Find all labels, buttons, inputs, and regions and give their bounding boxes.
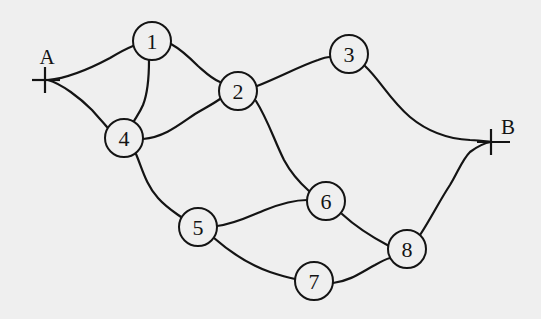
network-diagram: A B 1 2 3 4 5 6 (0, 0, 541, 319)
terminal-a-label: A (39, 45, 55, 69)
edge-A-4 (48, 80, 107, 127)
node-1-label: 1 (147, 29, 158, 54)
node-7: 7 (295, 262, 333, 300)
node-2: 2 (219, 72, 257, 110)
edge-2-6 (256, 101, 309, 191)
edge-A-1 (48, 46, 133, 80)
node-4-label: 4 (119, 126, 130, 151)
edge-1-4 (134, 60, 149, 121)
edge-1-2 (171, 44, 220, 82)
node-6: 6 (307, 182, 345, 220)
edge-4-5 (136, 154, 181, 217)
edge-5-6 (217, 200, 307, 226)
node-8-label: 8 (402, 237, 413, 262)
terminal-a: A (32, 45, 60, 93)
edge-4-2 (143, 99, 220, 139)
edge-7-8 (333, 258, 390, 283)
node-1: 1 (133, 22, 171, 60)
terminal-b-label: B (501, 115, 515, 139)
terminal-b: B (477, 115, 515, 155)
node-6-label: 6 (321, 189, 332, 214)
node-3: 3 (330, 35, 368, 73)
edge-2-3 (257, 57, 330, 86)
edge-3-B (365, 66, 491, 142)
node-5: 5 (179, 208, 217, 246)
nodes: 1 2 3 4 5 6 7 8 (105, 22, 426, 300)
edge-6-8 (342, 214, 389, 246)
node-2-label: 2 (233, 79, 244, 104)
node-7-label: 7 (309, 269, 320, 294)
node-4: 4 (105, 119, 143, 157)
edge-8-B (420, 142, 491, 235)
node-5-label: 5 (193, 215, 204, 240)
node-8: 8 (388, 230, 426, 268)
edge-5-7 (214, 238, 295, 279)
node-3-label: 3 (344, 42, 355, 67)
